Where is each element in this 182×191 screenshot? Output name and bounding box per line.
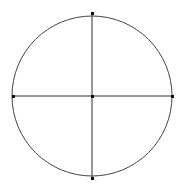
point-left xyxy=(12,95,15,98)
point-top xyxy=(91,12,94,15)
circle-diagram xyxy=(0,0,182,191)
point-right xyxy=(171,95,174,98)
point-center xyxy=(91,95,94,98)
point-bottom xyxy=(91,177,94,180)
